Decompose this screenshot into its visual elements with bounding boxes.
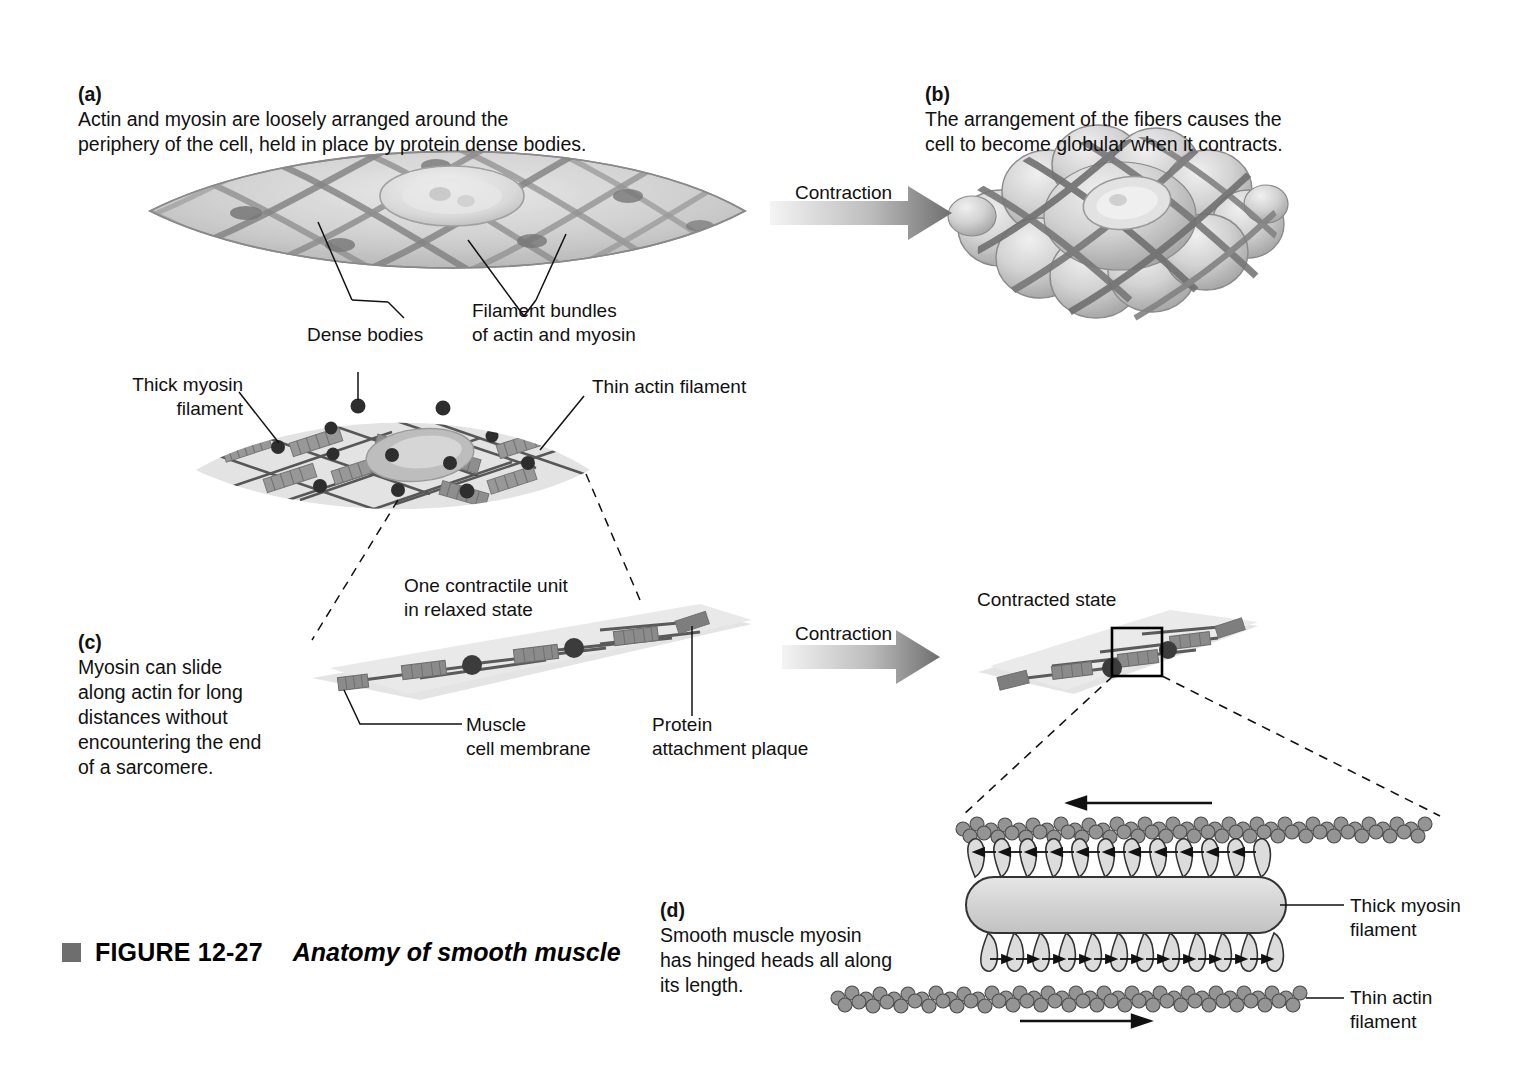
myosin-heads-lower <box>981 933 1284 971</box>
panel-a-text: Actin and myosin are loosely arranged ar… <box>78 108 586 155</box>
label-muscle-cell-membrane: Muscle cell membrane <box>466 713 591 761</box>
leader-lines-panel-c <box>344 626 692 724</box>
myosin-heads-upper <box>968 839 1271 877</box>
label-contraction-top: Contraction <box>795 181 892 205</box>
panel-d-text: Smooth muscle myosin has hinged heads al… <box>660 924 892 996</box>
panel-d-caption: (d) Smooth muscle myosin has hinged head… <box>660 873 950 998</box>
panel-c-tag: (c) <box>78 631 102 653</box>
actin-slide-arrow-top <box>1068 797 1212 809</box>
leader-lines-panel-d <box>1280 905 1344 998</box>
label-one-contractile-unit: One contractile unit in relaxed state <box>404 574 568 622</box>
contractile-unit-contracted-graphic <box>962 610 1440 816</box>
panel-b-tag: (b) <box>925 83 950 105</box>
label-contracted-state: Contracted state <box>977 588 1116 612</box>
actin-filament-top <box>956 817 1432 844</box>
figure-caption: FIGURE 12-27 Anatomy of smooth muscle <box>62 938 621 967</box>
actin-slide-arrow-bottom <box>1020 1015 1150 1027</box>
dense-body-dots-outer <box>325 399 536 499</box>
label-dense-bodies: Dense bodies <box>307 323 423 347</box>
zoom-region-box <box>1112 628 1162 676</box>
label-protein-attachment-plaque: Protein attachment plaque <box>652 713 808 761</box>
label-thick-myosin-filament-d: Thick myosin filament <box>1350 894 1461 942</box>
panel-a-tag: (a) <box>78 83 102 105</box>
label-thick-myosin-filament-top: Thick myosin filament <box>98 373 243 421</box>
figure-number: FIGURE 12-27 <box>95 938 263 967</box>
myosin-head-arrows-upper <box>974 848 1256 856</box>
figure-title: Anatomy of smooth muscle <box>293 938 621 967</box>
label-contraction-mid: Contraction <box>795 622 892 646</box>
label-thin-actin-filament-top: Thin actin filament <box>592 375 746 399</box>
panel-b-caption: (b) The arrangement of the fibers causes… <box>925 57 1395 157</box>
panel-c-caption: (c) Myosin can slide along actin for lon… <box>78 605 318 780</box>
myosin-head-arrows-lower <box>990 955 1272 963</box>
label-thin-actin-filament-d: Thin actin filament <box>1350 986 1432 1034</box>
relaxed-lens-cell-graphic <box>196 399 590 525</box>
myosin-body-graphic <box>966 877 1286 933</box>
label-filament-bundles: Filament bundles of actin and myosin <box>472 299 636 347</box>
panel-c-text: Myosin can slide along actin for long di… <box>78 656 261 778</box>
figure-bullet-icon <box>62 943 81 962</box>
panel-d-tag: (d) <box>660 899 685 921</box>
figure-smooth-muscle-anatomy: (a) Actin and myosin are loosely arrange… <box>0 0 1539 1072</box>
panel-a-caption: (a) Actin and myosin are loosely arrange… <box>78 57 638 157</box>
panel-b-text: The arrangement of the fibers causes the… <box>925 108 1283 155</box>
